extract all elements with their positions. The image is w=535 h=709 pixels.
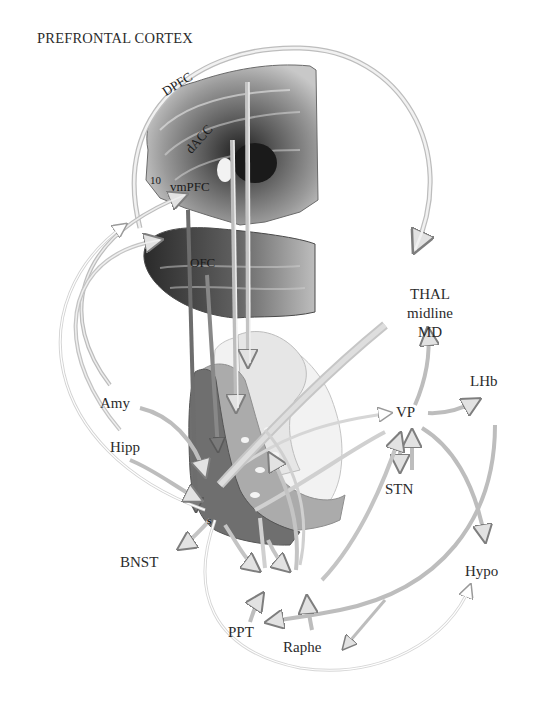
label-area-10: 10	[150, 175, 161, 186]
label-ppt: PPT	[228, 625, 254, 640]
label-stn: STN	[385, 482, 413, 497]
circuit-diagram	[0, 0, 535, 709]
label-md: MD	[395, 323, 465, 342]
label-bnst: BNST	[120, 555, 158, 570]
arrow-ppt-up	[250, 595, 262, 622]
label-amy: Amy	[100, 396, 130, 411]
label-hypo: Hypo	[465, 564, 498, 579]
arrow-vp-to-lhb	[428, 400, 478, 413]
label-lhb: LHb	[470, 374, 498, 389]
label-thal: THAL	[395, 285, 465, 304]
title-prefrontal-cortex: PREFRONTAL CORTEX	[37, 31, 193, 46]
orbitofrontal-brain	[144, 228, 315, 318]
arrow-striatum-to-bnst	[180, 520, 210, 548]
label-thalamus: THAL midline MD	[395, 285, 465, 342]
label-vmpfc: vmPFC	[170, 180, 210, 193]
label-striatum-s: s	[207, 515, 211, 526]
arrow-dpfc-to-striatum	[247, 82, 248, 365]
arrow-vp-to-hypo	[422, 428, 485, 540]
label-raphe: Raphe	[283, 640, 321, 655]
label-hipp: Hipp	[110, 440, 140, 455]
label-midline: midline	[395, 304, 465, 323]
label-vp: VP	[396, 405, 415, 420]
label-ofc: OFC	[190, 256, 215, 269]
